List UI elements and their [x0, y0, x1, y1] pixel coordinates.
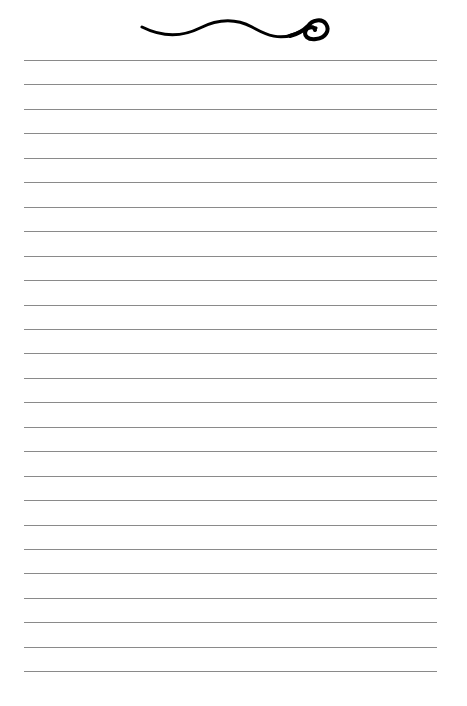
ruled-line [24, 84, 437, 85]
ruled-line [24, 109, 437, 110]
ruled-line [24, 598, 437, 599]
ruled-line [24, 549, 437, 550]
ruled-line [24, 207, 437, 208]
ruled-line [24, 500, 437, 501]
ruled-line [24, 353, 437, 354]
ruled-line [24, 573, 437, 574]
ruled-line [24, 671, 437, 672]
ruled-line [24, 60, 437, 61]
ruled-line [24, 158, 437, 159]
ruled-line [24, 280, 437, 281]
ruled-line [24, 622, 437, 623]
ruled-line [24, 256, 437, 257]
ruled-line [24, 476, 437, 477]
ruled-line [24, 182, 437, 183]
ruled-line [24, 525, 437, 526]
ruled-line [24, 427, 437, 428]
ruled-lines [24, 0, 437, 706]
ruled-line [24, 402, 437, 403]
ruled-line [24, 451, 437, 452]
ruled-line [24, 378, 437, 379]
ruled-line [24, 231, 437, 232]
ruled-line [24, 329, 437, 330]
ruled-line [24, 133, 437, 134]
ruled-line [24, 647, 437, 648]
ruled-line [24, 305, 437, 306]
